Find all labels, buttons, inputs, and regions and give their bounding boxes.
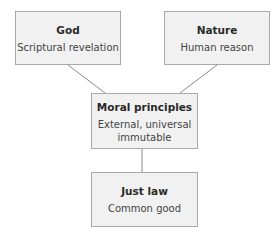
node-title: Just law — [92, 185, 197, 197]
node-subtitle-line1: External, universal — [92, 118, 197, 131]
node-title: Moral principles — [92, 101, 197, 113]
edge-god-to-moral — [68, 65, 105, 93]
node-title: Nature — [165, 24, 269, 36]
node-moral-principles: Moral principles External, universal imm… — [91, 93, 198, 149]
node-nature: Nature Human reason — [164, 11, 270, 65]
edge-nature-to-moral — [180, 65, 217, 93]
node-subtitle: Human reason — [165, 41, 269, 54]
node-subtitle: Scriptural revelation — [16, 41, 120, 54]
node-just-law: Just law Common good — [91, 172, 198, 227]
node-subtitle-line2: immutable — [92, 131, 197, 144]
node-god: God Scriptural revelation — [15, 11, 121, 65]
node-title: God — [16, 24, 120, 36]
node-subtitle: Common good — [92, 202, 197, 215]
